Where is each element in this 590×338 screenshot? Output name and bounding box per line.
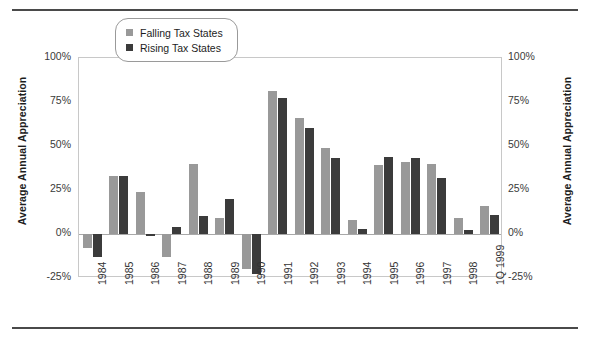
top-rule xyxy=(12,9,578,11)
bar-falling-1986 xyxy=(136,192,145,234)
x-tick-label: 1985 xyxy=(123,262,135,285)
bar-falling-1991 xyxy=(268,91,277,234)
bar-rising-1985 xyxy=(119,176,128,234)
x-tick-label: 1996 xyxy=(414,262,426,285)
x-tick-label: 1993 xyxy=(335,262,347,285)
bar-falling-1989 xyxy=(215,218,224,234)
legend-swatch-falling-icon xyxy=(126,29,133,36)
x-tick-label: 1991 xyxy=(282,262,294,285)
bar-rising-1997 xyxy=(437,178,446,234)
bar-falling-1994 xyxy=(348,220,357,234)
legend-swatch-rising-icon xyxy=(126,44,133,51)
x-tick-label: 1986 xyxy=(149,262,161,285)
x-tick-label: 1997 xyxy=(441,262,453,285)
y-tick-label: 50% xyxy=(508,138,552,150)
bar-falling-1998 xyxy=(454,218,463,234)
bar-rising-1993 xyxy=(331,158,340,234)
y-axis-title-left: Average Annual Appreciation xyxy=(16,58,28,244)
x-tick-label: 1990 xyxy=(255,262,267,285)
y-tick-label: 100% xyxy=(508,50,552,62)
bar-falling-1Q-1999 xyxy=(480,206,489,234)
x-tick-label: 1987 xyxy=(176,262,188,285)
bar-falling-1987 xyxy=(162,234,171,257)
bar-rising-1987 xyxy=(172,227,181,234)
bar-falling-1996 xyxy=(401,162,410,234)
x-tick-label: 1988 xyxy=(202,262,214,285)
y-tick-label: 100% xyxy=(31,50,71,62)
bar-rising-1994 xyxy=(358,229,367,234)
legend-item-rising: Rising Tax States xyxy=(126,40,223,55)
bar-rising-1988 xyxy=(199,216,208,234)
y-tick-label: 0% xyxy=(31,226,71,238)
bar-rising-1Q-1999 xyxy=(490,215,499,234)
legend-label-rising: Rising Tax States xyxy=(140,42,221,54)
bar-falling-1992 xyxy=(295,118,304,234)
bar-falling-1985 xyxy=(109,176,118,234)
x-tick-label: 1989 xyxy=(229,262,241,285)
y-tick-label: 50% xyxy=(31,138,71,150)
x-tick-label: 1998 xyxy=(467,262,479,285)
legend-label-falling: Falling Tax States xyxy=(140,27,223,39)
legend-item-falling: Falling Tax States xyxy=(126,25,223,40)
bar-falling-1995 xyxy=(374,165,383,234)
bar-rising-1984 xyxy=(93,234,102,257)
y-tick-label: 25% xyxy=(508,182,552,194)
chart-figure: Average Annual Appreciation Average Annu… xyxy=(0,0,590,338)
y-tick-label: 25% xyxy=(31,182,71,194)
bar-rising-1998 xyxy=(464,230,473,234)
x-tick-label: 1995 xyxy=(388,262,400,285)
bar-rising-1992 xyxy=(305,128,314,234)
bar-rising-1996 xyxy=(411,158,420,234)
x-tick-label: 1Q 1999 xyxy=(494,245,506,285)
bar-falling-1990 xyxy=(242,234,251,269)
y-tick-label: 75% xyxy=(31,94,71,106)
plot-area xyxy=(78,57,502,277)
y-tick-label: -25% xyxy=(31,270,71,282)
bar-series-container xyxy=(79,58,501,276)
bar-falling-1993 xyxy=(321,148,330,234)
y-tick-label: 0% xyxy=(508,226,552,238)
y-axis-title-right: Average Annual Appreciation xyxy=(561,58,573,244)
x-tick-label: 1994 xyxy=(361,262,373,285)
bar-rising-1986 xyxy=(146,234,155,236)
bottom-rule xyxy=(12,327,578,329)
bar-rising-1995 xyxy=(384,157,393,234)
bar-rising-1989 xyxy=(225,199,234,234)
x-tick-label: 1984 xyxy=(96,262,108,285)
x-tick-label: 1992 xyxy=(308,262,320,285)
bar-falling-1997 xyxy=(427,164,436,234)
bar-falling-1984 xyxy=(83,234,92,248)
chart-legend: Falling Tax States Rising Tax States xyxy=(115,18,238,62)
bar-rising-1991 xyxy=(278,98,287,234)
y-tick-label: -25% xyxy=(508,270,552,282)
bar-falling-1988 xyxy=(189,164,198,234)
y-tick-label: 75% xyxy=(508,94,552,106)
